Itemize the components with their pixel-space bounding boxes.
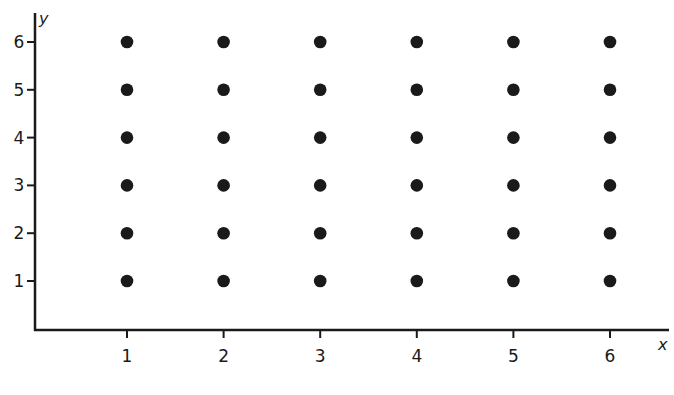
y-tick-label: 1	[14, 271, 25, 291]
data-point	[121, 131, 134, 144]
data-point	[314, 36, 327, 49]
scatter-chart: x y 123456 123456	[0, 0, 674, 395]
data-point	[507, 227, 520, 240]
data-point	[217, 227, 230, 240]
y-tick-label: 6	[14, 32, 25, 52]
data-point	[314, 179, 327, 192]
data-point	[121, 227, 134, 240]
data-point	[217, 131, 230, 144]
x-tick-label: 5	[508, 346, 519, 366]
data-point	[121, 179, 134, 192]
data-point	[507, 36, 520, 49]
data-point	[217, 179, 230, 192]
data-point	[507, 131, 520, 144]
data-point	[604, 275, 617, 288]
data-point	[121, 84, 134, 97]
x-axis-label: x	[657, 335, 668, 354]
data-point	[217, 275, 230, 288]
data-point	[411, 131, 424, 144]
y-tick-label: 3	[14, 175, 25, 195]
y-axis-label: y	[38, 9, 49, 28]
x-tick-label: 2	[218, 346, 229, 366]
data-point	[411, 84, 424, 97]
data-point	[314, 84, 327, 97]
data-point	[217, 36, 230, 49]
data-point	[604, 36, 617, 49]
data-point	[411, 227, 424, 240]
x-tick-label: 6	[605, 346, 616, 366]
data-point	[411, 179, 424, 192]
y-tick-label: 4	[14, 128, 25, 148]
data-point	[604, 84, 617, 97]
data-point	[507, 84, 520, 97]
data-point	[121, 36, 134, 49]
data-point	[121, 275, 134, 288]
data-point	[604, 131, 617, 144]
data-point	[217, 84, 230, 97]
data-points	[121, 36, 617, 288]
y-tick-label: 2	[14, 223, 25, 243]
y-ticks: 123456	[14, 32, 35, 291]
x-ticks: 123456	[122, 330, 616, 366]
y-tick-label: 5	[14, 80, 25, 100]
data-point	[507, 275, 520, 288]
x-tick-label: 4	[411, 346, 422, 366]
data-point	[411, 275, 424, 288]
data-point	[604, 227, 617, 240]
data-point	[314, 227, 327, 240]
x-tick-label: 3	[315, 346, 326, 366]
data-point	[314, 131, 327, 144]
data-point	[507, 179, 520, 192]
data-point	[314, 275, 327, 288]
x-tick-label: 1	[122, 346, 133, 366]
data-point	[411, 36, 424, 49]
data-point	[604, 179, 617, 192]
